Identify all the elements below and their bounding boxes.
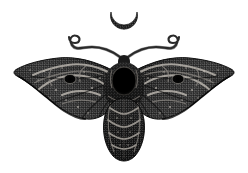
moth-illustration [0,0,248,173]
artwork-canvas: Death's-head moth with crescent moon [0,0,248,173]
